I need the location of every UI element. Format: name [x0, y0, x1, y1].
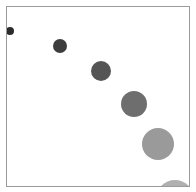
plot-frame — [6, 6, 190, 187]
bubble-marker-2 — [53, 39, 67, 53]
bubble-marker-4 — [121, 91, 147, 117]
bubble-marker-5 — [142, 128, 174, 160]
bubble-marker-6 — [156, 180, 190, 187]
bubble-marker-3 — [91, 61, 111, 81]
bubble-marker-1 — [6, 27, 14, 35]
figure-canvas — [0, 0, 196, 192]
